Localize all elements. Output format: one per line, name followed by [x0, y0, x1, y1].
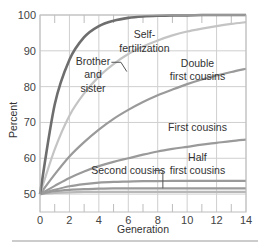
y-tick-label: 90 [24, 45, 36, 57]
y-tick-label: 100 [18, 9, 36, 21]
x-tick-label: 4 [96, 214, 102, 226]
x-tick-label: 12 [210, 214, 222, 226]
curve-label: first cousins [170, 70, 225, 82]
y-axis-label: Percent [7, 102, 19, 138]
curve-label: Double [181, 57, 214, 69]
x-tick-label: 10 [181, 214, 193, 226]
curve-label: and [84, 68, 102, 80]
curve-label: Brother [76, 55, 111, 67]
curve-label: first cousins [170, 164, 225, 176]
y-tick-label: 80 [24, 81, 36, 93]
x-tick-label: 14 [240, 214, 252, 226]
y-tick-label: 60 [24, 152, 36, 164]
x-tick-label: 0 [37, 214, 43, 226]
curve-label: Self- [134, 28, 156, 40]
y-tick-label: 50 [24, 188, 36, 200]
y-tick-label: 70 [24, 116, 36, 128]
inbreeding-chart: 024681012145060708090100 Self-fertilizat… [0, 0, 258, 244]
curve-label: fertilization [119, 42, 169, 54]
curve-label: Half [188, 151, 207, 163]
x-axis-label: Generation [117, 223, 169, 235]
curve-label: First cousins [168, 121, 227, 133]
curve-label: sister [80, 82, 106, 94]
x-tick-label: 2 [66, 214, 72, 226]
